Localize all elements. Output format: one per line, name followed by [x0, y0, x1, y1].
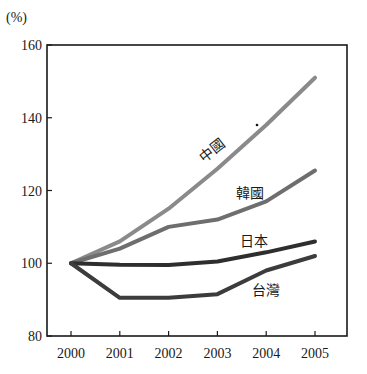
- series-label-korea: 韓國: [236, 185, 264, 201]
- y-tick-label: 100: [21, 256, 42, 271]
- x-tick-label: 2004: [252, 346, 280, 361]
- y-tick-label: 140: [21, 111, 42, 126]
- x-tick-label: 2005: [301, 346, 329, 361]
- y-axis-unit: (%): [6, 10, 27, 26]
- y-tick-label: 120: [21, 184, 42, 199]
- y-tick-label: 80: [28, 329, 42, 344]
- y-tick-label: 160: [21, 38, 42, 53]
- x-tick-label: 2000: [57, 346, 85, 361]
- x-tick-label: 2001: [106, 346, 134, 361]
- series-line-0: [71, 78, 315, 264]
- series-label-japan: 日本: [240, 233, 268, 249]
- x-tick-label: 2002: [155, 346, 183, 361]
- stray-dot: [256, 124, 259, 127]
- x-tick-label: 2003: [203, 346, 231, 361]
- series-lines: [71, 78, 315, 298]
- line-chart: (%) 80100120140160 200020012002200320042…: [0, 0, 367, 374]
- series-label-taiwan: 台灣: [252, 282, 280, 298]
